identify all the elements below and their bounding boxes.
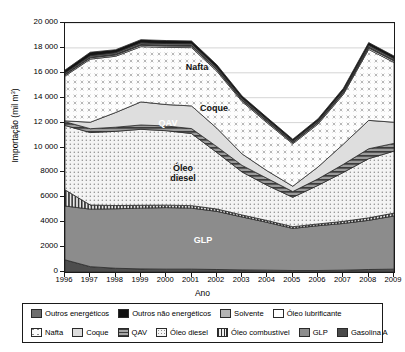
x-tick-mark xyxy=(292,273,293,277)
y-tick-label: 8000 xyxy=(0,167,58,175)
y-tick-label: 18 000 xyxy=(0,43,58,51)
y-tick-label: 2000 xyxy=(0,242,58,250)
legend-label: Outros energéticos xyxy=(45,309,109,318)
legend-item[interactable]: Óleo combustível xyxy=(217,328,290,337)
legend-label: GLP xyxy=(313,328,328,337)
legend-item[interactable]: Nafta xyxy=(31,328,63,337)
legend-swatch-icon xyxy=(217,328,228,337)
legend-swatch-icon xyxy=(156,328,167,337)
legend-swatch-icon xyxy=(299,328,310,337)
legend: Outros energéticosOutros não energéticos… xyxy=(22,303,383,343)
legend-swatch-icon xyxy=(31,309,42,318)
legend-label: Gasolina A xyxy=(351,328,388,337)
legend-swatch-icon xyxy=(220,309,231,318)
x-tick-mark xyxy=(115,273,116,277)
legend-item[interactable]: GLP xyxy=(299,328,328,337)
legend-label: Óleo combustível xyxy=(231,328,290,337)
legend-item[interactable]: Solvente xyxy=(220,309,264,318)
x-tick-mark xyxy=(64,273,65,277)
x-axis-title: Ano xyxy=(0,288,405,298)
legend-label: Coque xyxy=(86,328,108,337)
legend-label: Outros não energéticos xyxy=(132,309,211,318)
x-tick-mark xyxy=(393,273,394,277)
y-tick-label: 14 000 xyxy=(0,93,58,101)
legend-row-1: Outros energéticosOutros não energéticos… xyxy=(23,304,382,323)
legend-swatch-icon xyxy=(31,328,42,337)
legend-label: Solvente xyxy=(234,309,264,318)
y-axis-title-text: Importação (mil m xyxy=(10,95,20,163)
x-tick-mark xyxy=(89,273,90,277)
legend-item[interactable]: Coque xyxy=(72,328,108,337)
area-series-group xyxy=(65,40,394,272)
legend-item[interactable]: Gasolina A xyxy=(337,328,388,337)
x-tick-label: 2009 xyxy=(378,276,405,284)
legend-label: Óleo lubrificante xyxy=(287,309,342,318)
legend-swatch-icon xyxy=(72,328,83,337)
stacked-area-svg xyxy=(65,23,394,272)
x-tick-mark xyxy=(191,273,192,277)
y-tick-label: 12 000 xyxy=(0,118,58,126)
legend-item[interactable]: Óleo diesel xyxy=(156,328,208,337)
legend-item[interactable]: Outros energéticos xyxy=(31,309,109,318)
x-tick-mark xyxy=(241,273,242,277)
legend-label: Óleo diesel xyxy=(170,328,208,337)
x-tick-mark xyxy=(266,273,267,277)
legend-row-2: NaftaCoqueQAVÓleo dieselÓleo combustível… xyxy=(23,323,382,342)
legend-item[interactable]: QAV xyxy=(118,328,147,337)
plot-area: GLP Óleo diesel QAV Coque Nafta xyxy=(64,22,395,273)
y-tick-label: 20 000 xyxy=(0,18,58,26)
y-axis-title-tail: ) xyxy=(10,88,20,91)
legend-item[interactable]: Outros não energéticos xyxy=(118,309,211,318)
legend-label: Nafta xyxy=(45,328,63,337)
legend-swatch-icon xyxy=(273,309,284,318)
y-tick-label: 16 000 xyxy=(0,68,58,76)
legend-swatch-icon xyxy=(118,328,129,337)
legend-swatch-icon xyxy=(118,309,129,318)
x-tick-mark xyxy=(140,273,141,277)
legend-item[interactable]: Óleo lubrificante xyxy=(273,309,342,318)
x-tick-mark xyxy=(216,273,217,277)
y-tick-label: 10 000 xyxy=(0,143,58,151)
x-tick-mark xyxy=(342,273,343,277)
x-tick-mark xyxy=(165,273,166,277)
y-tick-label: 6000 xyxy=(0,192,58,200)
legend-swatch-icon xyxy=(337,328,348,337)
legend-label: QAV xyxy=(132,328,147,337)
y-tick-label: 4000 xyxy=(0,217,58,225)
y-tick-label: 0 xyxy=(0,267,58,275)
x-tick-mark xyxy=(317,273,318,277)
x-tick-mark xyxy=(368,273,369,277)
chart-root: Importação (mil m3) 20 00018 00016 00014… xyxy=(0,0,405,352)
